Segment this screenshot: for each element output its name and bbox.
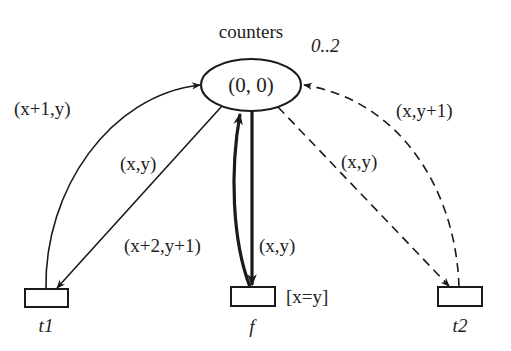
transition-f-guard: [x=y] — [286, 286, 328, 307]
arc-inscription-counters-to-f: (x,y) — [259, 235, 295, 257]
transition-f-label: f — [249, 316, 257, 337]
arc-f-to-counters[interactable] — [234, 114, 250, 287]
transition-f[interactable]: f [x=y] — [231, 286, 328, 337]
transition-t2-box[interactable] — [438, 287, 482, 306]
place-marking: (0, 0) — [228, 73, 274, 97]
transition-f-box[interactable] — [231, 287, 275, 306]
transition-t1[interactable]: t1 — [25, 289, 68, 336]
arc-inscription-t1-to-counters: (x+1,y) — [14, 98, 71, 120]
arc-inscription-counters-to-t1: (x,y) — [120, 153, 156, 175]
place-capacity-label: 0..2 — [311, 35, 340, 56]
place-name-label: counters — [219, 21, 283, 42]
place-counters[interactable]: (0, 0) — [201, 59, 301, 111]
arc-counters-to-t1[interactable] — [57, 106, 222, 288]
transition-t1-label: t1 — [39, 315, 54, 336]
petri-net-diagram: counters (0, 0) 0..2 (x+1,y) (x,y) (x+2,… — [0, 0, 511, 351]
transition-t2-label: t2 — [453, 315, 468, 336]
transition-t2[interactable]: t2 — [438, 287, 482, 336]
arc-inscription-t2-to-counters: (x,y+1) — [396, 100, 453, 122]
arc-counters-to-t2[interactable] — [278, 107, 449, 286]
transition-t1-box[interactable] — [25, 289, 68, 307]
arc-inscription-f-to-counters: (x+2,y+1) — [124, 235, 201, 257]
arc-inscription-counters-to-t2: (x,y) — [341, 151, 377, 173]
